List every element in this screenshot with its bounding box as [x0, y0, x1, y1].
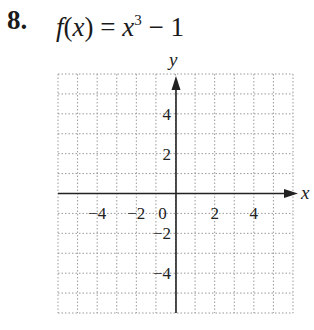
x-tick-label: −4 — [88, 204, 107, 223]
y-axis-label: y — [167, 49, 178, 70]
y-tick-label: 2 — [163, 145, 172, 164]
x-tick-label: −2 — [127, 204, 145, 223]
coordinate-grid: y x −4−2024 42−2−4 — [0, 0, 314, 330]
y-tick-label: −2 — [153, 224, 171, 243]
x-tick-label: 4 — [250, 204, 259, 223]
x-axis-label: x — [300, 182, 310, 203]
y-axis-arrow-icon — [172, 76, 181, 90]
y-tick-label: 4 — [163, 105, 172, 124]
x-axis-arrow-icon — [284, 189, 298, 198]
x-tick-label: 2 — [210, 204, 219, 223]
y-tick-label: −4 — [153, 264, 172, 283]
x-tick-label: 0 — [158, 204, 167, 223]
